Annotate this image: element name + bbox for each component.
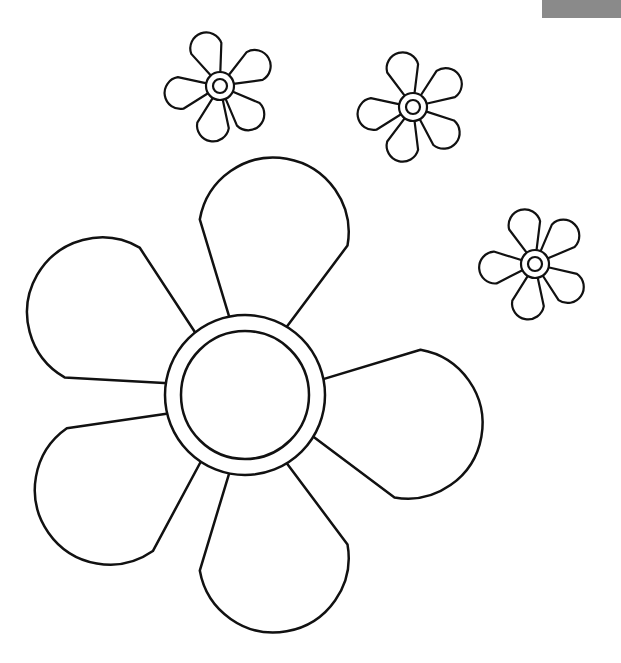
petal [197, 98, 229, 142]
petal [387, 52, 418, 96]
petal [200, 158, 349, 329]
petal [421, 68, 462, 104]
flower-center [181, 331, 309, 459]
petal [165, 77, 209, 109]
petal [358, 98, 402, 130]
flower-center [213, 79, 227, 93]
coloring-page-canvas [0, 0, 621, 663]
petal [420, 111, 460, 148]
petal [225, 91, 264, 130]
flower-center [406, 100, 420, 114]
petal [512, 276, 544, 320]
small-flower-right [479, 209, 584, 319]
petal [200, 461, 349, 632]
small-flower-top-left [165, 32, 271, 141]
petal [190, 32, 221, 75]
petal [540, 220, 579, 259]
petal [509, 209, 540, 253]
flower-center [528, 257, 542, 271]
petal [228, 50, 270, 84]
petal [479, 252, 523, 284]
petal [387, 118, 418, 162]
petal [543, 267, 584, 303]
petal [311, 350, 482, 499]
small-flower-top-middle [358, 52, 462, 161]
large-flower [27, 158, 482, 633]
